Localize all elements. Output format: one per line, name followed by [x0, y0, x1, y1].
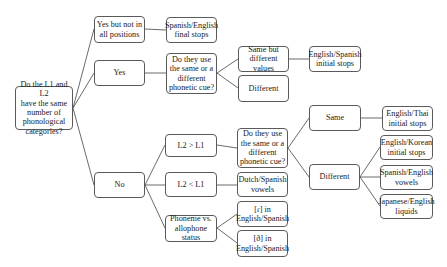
same-node: Same — [309, 105, 361, 131]
l2-less-l1-node: L2 < L1 — [165, 172, 217, 197]
same-different-values-node: Same but different values — [238, 46, 289, 72]
dutch-spanish-vowels-node: Dutch/Spanish vowels — [237, 172, 288, 197]
spanish-english-final-stops-node: Spanish/English final stops — [166, 17, 217, 43]
tap-english-spanish-node: [ɾ] in English/Spanish — [237, 201, 288, 227]
english-korean-initial-stops-node: English/Korean initial stops — [380, 135, 433, 160]
english-thai-initial-stops-node: English/Thai initial stops — [382, 106, 433, 131]
root-question-node: Do the L1 and L2 have the same number of… — [15, 86, 73, 130]
yes-different-node: Different — [238, 75, 289, 102]
no-phonetic-cue-question-node: Do they use the same or a different phon… — [237, 128, 288, 168]
no-different-node: Different — [309, 164, 360, 190]
yes-phonetic-cue-question-node: Do they use the same or a different phon… — [166, 53, 217, 94]
eth-english-spanish-node: [ð] in English/Spanish — [237, 230, 288, 257]
yes-node: Yes — [94, 60, 145, 86]
no-node: No — [94, 172, 145, 198]
spanish-english-vowels-node: Spanish/English vowels — [380, 165, 433, 190]
l2-greater-l1-node: L2 > L1 — [165, 134, 217, 157]
phoneme-allophone-node: Phoneme vs. allophone status — [165, 215, 217, 242]
english-spanish-initial-stops-node: English/Spanish initial stops — [309, 46, 361, 72]
japanese-english-liquids-node: Japanese/English liquids — [380, 194, 433, 219]
decision-tree-diagram: Do the L1 and L2 have the same number of… — [0, 0, 447, 267]
yes-partial-node: Yes but not in all positions — [94, 16, 145, 43]
